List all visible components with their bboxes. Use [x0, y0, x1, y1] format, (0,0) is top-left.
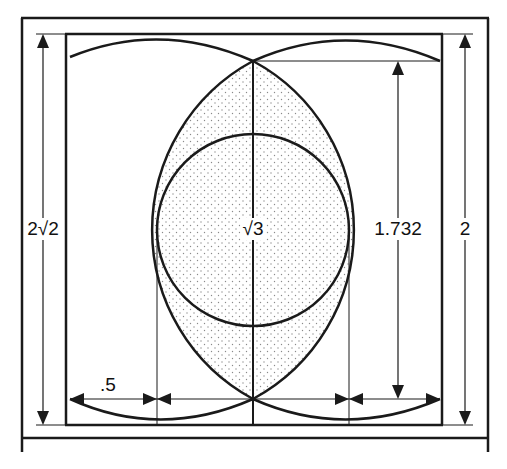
half-width-label: .5 [98, 374, 118, 396]
inner-height-label: 1.732 [372, 218, 424, 240]
outer-height-label: 2 [458, 218, 473, 240]
left-height-label: 2√2 [25, 218, 61, 240]
center-label: √3 [241, 218, 266, 240]
